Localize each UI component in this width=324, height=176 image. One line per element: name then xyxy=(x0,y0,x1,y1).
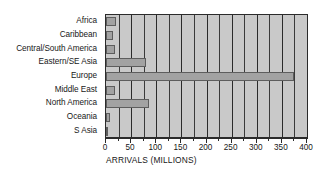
y-axis-label-africa: Africa xyxy=(76,16,97,25)
x-tick-label-300: 300 xyxy=(249,143,263,153)
x-tick-label-50: 50 xyxy=(126,143,135,153)
y-axis-label-north-america: North America xyxy=(46,98,97,107)
y-axis-label-row: Middle East xyxy=(0,82,101,96)
bar-oceania xyxy=(106,113,110,122)
y-axis-label-central-south-america: Central/South America xyxy=(16,44,97,53)
bar-row xyxy=(106,83,307,97)
x-tick-label-0: 0 xyxy=(103,143,108,153)
bar-row xyxy=(106,111,307,125)
bar-eastern-se-asia xyxy=(106,58,146,67)
bar-caribbean xyxy=(106,31,113,40)
y-axis-label-oceania: Oceania xyxy=(67,112,97,121)
bar-row xyxy=(106,124,307,138)
x-tick-label-100: 100 xyxy=(148,143,162,153)
bar-row xyxy=(106,70,307,84)
y-axis-label-row: Oceania xyxy=(0,110,101,124)
x-tick-325 xyxy=(268,138,269,141)
y-axis-label-europe: Europe xyxy=(71,71,97,80)
y-axis-label-row: S Asia xyxy=(0,123,101,137)
x-tick-label-400: 400 xyxy=(299,143,313,153)
y-axis-label-row: North America xyxy=(0,96,101,110)
x-tick-175 xyxy=(193,138,194,141)
y-axis-label-eastern-se-asia: Eastern/SE Asia xyxy=(39,57,97,66)
x-axis-title: ARRIVALS (MILLIONS) xyxy=(106,155,197,165)
y-axis-label-row: Central/South America xyxy=(0,41,101,55)
y-axis-label-row: Eastern/SE Asia xyxy=(0,55,101,69)
bar-africa xyxy=(106,17,116,26)
y-axis-label-s-asia: S Asia xyxy=(74,126,97,135)
x-tick-125 xyxy=(168,138,169,141)
plot-area xyxy=(105,14,308,139)
y-axis-label-row: Caribbean xyxy=(0,28,101,42)
x-tick-375 xyxy=(293,138,294,141)
y-axis-label-middle-east: Middle East xyxy=(55,85,97,94)
x-tick-225 xyxy=(218,138,219,141)
bar-s-asia xyxy=(106,127,108,136)
bar-chart-figure: Africa Caribbean Central/South America E… xyxy=(0,0,324,176)
x-tick-25 xyxy=(118,138,119,141)
x-tick-label-250: 250 xyxy=(224,143,238,153)
bar-row xyxy=(106,42,307,56)
y-axis-label-row: Europe xyxy=(0,69,101,83)
bar-row xyxy=(106,56,307,70)
bar-north-america xyxy=(106,99,149,108)
bar-row xyxy=(106,29,307,43)
bar-middle-east xyxy=(106,86,115,95)
x-tick-label-150: 150 xyxy=(174,143,188,153)
x-axis-tick-labels: 050100150200250300350400 xyxy=(105,143,306,154)
y-axis-label-row: Africa xyxy=(0,14,101,28)
bar-europe xyxy=(106,72,294,81)
y-axis-label-caribbean: Caribbean xyxy=(60,30,97,39)
bar-row xyxy=(106,97,307,111)
bar-row xyxy=(106,15,307,29)
y-axis-category-labels: Africa Caribbean Central/South America E… xyxy=(0,14,101,137)
x-tick-75 xyxy=(143,138,144,141)
x-tick-label-350: 350 xyxy=(274,143,288,153)
bar-series xyxy=(106,15,307,138)
x-tick-label-200: 200 xyxy=(199,143,213,153)
bar-central-south-america xyxy=(106,45,115,54)
x-tick-275 xyxy=(243,138,244,141)
